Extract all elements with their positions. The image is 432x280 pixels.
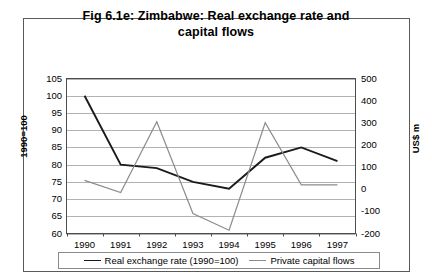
y-axis-right-tick-label: 500 (361, 74, 391, 84)
y-axis-left-tick-label: 95 (36, 108, 62, 118)
data-series-line (85, 96, 338, 189)
y-axis-left-tick-label: 105 (36, 74, 62, 84)
x-axis-tick-label: 1996 (281, 240, 321, 250)
y-axis-right-tick-label: 100 (361, 162, 391, 172)
data-series-line (85, 122, 338, 230)
x-axis-tick-label: 1995 (245, 240, 285, 250)
y-axis-left-tick-label: 100 (36, 91, 62, 101)
y-axis-left-tick-label: 65 (36, 211, 62, 221)
plot-area-wrapper: 1990=100 US$ m 1051009590858075706560 50… (0, 0, 432, 280)
legend-item-private-capital-flows: Private capital flows (249, 255, 354, 266)
y-axis-left-tick-label: 90 (36, 125, 62, 135)
chart-legend: Real exchange rate (1990=100) Private ca… (58, 252, 380, 269)
legend-item-real-exchange-rate: Real exchange rate (1990=100) (84, 255, 239, 266)
y-axis-right-tick-label: 300 (361, 118, 391, 128)
y-axis-right-tick-label: 200 (361, 140, 391, 150)
x-axis-tick-label: 1990 (65, 240, 105, 250)
y-axis-left-tick-label: 70 (36, 194, 62, 204)
y-axis-right-tick-label: 400 (361, 96, 391, 106)
gridlines (67, 80, 356, 235)
x-axis-tick-label: 1992 (137, 240, 177, 250)
x-axis-tick-label: 1991 (101, 240, 141, 250)
plot-frame (67, 79, 356, 234)
y-axis-right-tick-label: 0 (361, 184, 391, 194)
y-axis-right-tick-label: -200 (361, 229, 391, 239)
x-axis-tick-label: 1993 (173, 240, 213, 250)
legend-label: Private capital flows (270, 255, 354, 266)
y-axis-right-tick-label: -100 (361, 206, 391, 216)
data-series-layer (85, 96, 338, 230)
x-axis-tick-label: 1994 (209, 240, 249, 250)
y-axis-left-tick-label: 75 (36, 177, 62, 187)
legend-swatch-icon (84, 260, 101, 261)
legend-swatch-icon (249, 260, 266, 261)
legend-label: Real exchange rate (1990=100) (105, 255, 239, 266)
x-axis-tick-label: 1997 (317, 240, 357, 250)
y-axis-left-tick-label: 85 (36, 142, 62, 152)
y-axis-left-tick-label: 60 (36, 229, 62, 239)
y-axis-left-tick-label: 80 (36, 160, 62, 170)
